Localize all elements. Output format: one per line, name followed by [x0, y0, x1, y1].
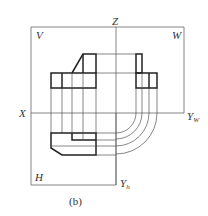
top-view	[51, 133, 96, 155]
front-view	[51, 54, 96, 88]
figure-caption: (b)	[69, 195, 82, 208]
frame-h	[31, 113, 116, 185]
label-x: X	[18, 107, 27, 119]
label-z: Z	[112, 15, 119, 27]
label-yw: YW	[187, 110, 200, 124]
transfer-arcs	[116, 113, 157, 154]
projection-diagram: Z V W X YW H Yh (b)	[0, 0, 208, 216]
label-h: H	[34, 171, 44, 183]
label-yh: Yh	[120, 177, 130, 191]
projection-lines-top	[96, 133, 116, 155]
frame-vw	[31, 27, 184, 113]
projection-lines-side	[136, 88, 157, 113]
side-view	[136, 54, 157, 88]
projection-lines-vertical	[51, 88, 96, 133]
label-v: V	[36, 29, 44, 41]
label-w: W	[172, 29, 182, 41]
